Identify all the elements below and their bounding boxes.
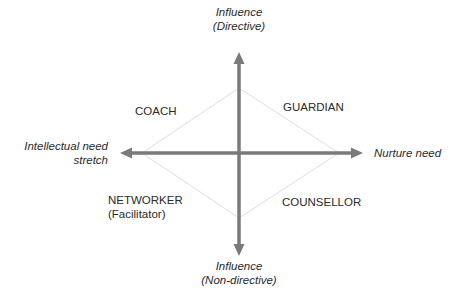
axis-left-line1: Intellectual need xyxy=(4,139,108,153)
axis-bottom-line2: (Non-directive) xyxy=(184,273,294,287)
axis-bottom-line1: Influence xyxy=(184,259,294,273)
quadrant-label-coach: COACH xyxy=(135,104,177,118)
arrow-left-icon xyxy=(120,148,132,159)
quadrant-label-guardian: GUARDIAN xyxy=(283,100,344,114)
axis-label-bottom: Influence (Non-directive) xyxy=(184,259,294,287)
influence-needs-diagram: Influence (Directive) Influence (Non-dir… xyxy=(0,0,462,301)
axis-right-line1: Nurture need xyxy=(374,147,441,159)
networker-label: NETWORKER xyxy=(108,193,183,207)
facilitator-sublabel: (Facilitator) xyxy=(108,207,183,221)
quadrant-label-networker: NETWORKER (Facilitator) xyxy=(108,193,183,221)
quadrant-label-counsellor: COUNSELLOR xyxy=(282,195,361,209)
axis-label-top: Influence (Directive) xyxy=(199,5,279,33)
axis-label-left: Intellectual need stretch xyxy=(4,139,108,167)
arrow-down-icon xyxy=(234,244,245,256)
arrow-right-icon xyxy=(351,148,363,159)
axis-label-right: Nurture need xyxy=(374,146,441,160)
axis-top-line2: (Directive) xyxy=(199,19,279,33)
horizontal-axis xyxy=(120,148,363,159)
arrow-up-icon xyxy=(234,52,245,64)
axis-left-line2: stretch xyxy=(4,153,108,167)
axis-top-line1: Influence xyxy=(199,5,279,19)
